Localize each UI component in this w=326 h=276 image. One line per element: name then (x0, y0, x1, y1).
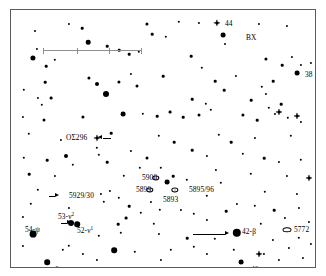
star-point (96, 259, 98, 261)
star-point (30, 55, 35, 60)
star-point (206, 219, 208, 221)
pointer-arrow-head (98, 135, 102, 139)
star-point (198, 114, 201, 117)
star-point (170, 249, 172, 251)
star-point (278, 161, 280, 163)
star-point (106, 45, 109, 48)
star-point (221, 33, 226, 38)
star-point (44, 81, 47, 84)
star-point (128, 205, 131, 208)
star-point (180, 209, 182, 211)
star-point (298, 237, 300, 239)
object-label: BX (246, 34, 256, 41)
star-chart: 44BX38OΣ296590058995895/9658935929/3053-… (0, 0, 326, 276)
object-label: 53-ν2 (58, 213, 74, 220)
star-point (98, 154, 100, 156)
object-label: 42-β (242, 228, 256, 235)
star-point (223, 89, 226, 92)
star-point (46, 159, 49, 162)
star-point (286, 25, 288, 27)
star-point (86, 40, 91, 45)
star-point (193, 213, 195, 215)
star-point (36, 48, 38, 50)
object-label: 5900 (142, 174, 157, 181)
star-point (214, 80, 217, 83)
star-point (286, 175, 288, 177)
star-point (178, 21, 180, 23)
star-point (130, 73, 132, 75)
object-label: 5772 (294, 226, 309, 233)
star-point (272, 239, 274, 241)
star-point (134, 251, 136, 253)
star-point (261, 86, 263, 88)
star-point (241, 113, 244, 116)
star-point (201, 67, 203, 69)
star-point (82, 253, 84, 255)
star-point (95, 82, 99, 86)
star-point (150, 201, 152, 203)
star-point (250, 173, 252, 175)
scale-bar-line (43, 50, 141, 51)
star-point (50, 97, 53, 100)
star-point (68, 207, 70, 209)
double-star-icon (294, 113, 300, 119)
object-label: 5899 (136, 186, 151, 193)
star-point (111, 247, 117, 253)
star-point (72, 164, 74, 166)
star-point (254, 205, 256, 207)
star-point (81, 27, 84, 30)
star-point (230, 141, 233, 144)
star-point (156, 115, 159, 118)
star-point (193, 246, 195, 248)
star-point (239, 260, 244, 265)
object-label: 6-μ (55, 266, 65, 268)
star-point (136, 85, 139, 88)
star-point (250, 99, 253, 102)
star-point (284, 217, 286, 219)
star-point (117, 223, 120, 226)
star-point (205, 103, 207, 105)
star-point (117, 80, 120, 83)
object-label: 38 (305, 71, 313, 78)
star-point (258, 23, 260, 25)
star-point (233, 229, 241, 237)
star-point (142, 113, 144, 115)
double-star-icon (214, 20, 220, 26)
scale-bar-tick (77, 48, 78, 54)
star-point (110, 132, 113, 135)
star-point (206, 195, 208, 197)
star-point (218, 134, 220, 136)
star-point (68, 23, 70, 25)
star-point (100, 193, 102, 195)
star-point (62, 249, 64, 251)
star-point (190, 55, 193, 58)
star-point (138, 51, 140, 53)
star-point (146, 157, 149, 160)
star-point (296, 193, 298, 195)
star-point (158, 233, 160, 235)
star-point (169, 111, 172, 114)
scale-bar-tick (43, 48, 44, 54)
star-point (121, 112, 126, 117)
star-point (109, 190, 111, 192)
star-point (130, 150, 132, 152)
star-point (120, 232, 122, 234)
double-star-icon (306, 175, 312, 181)
star-point (139, 167, 141, 169)
star-point (220, 182, 222, 184)
star-point (291, 56, 293, 58)
star-point (263, 253, 265, 255)
star-point (41, 104, 43, 106)
star-point (290, 135, 292, 137)
star-point (302, 257, 304, 259)
star-point (210, 109, 212, 111)
star-point (128, 53, 131, 56)
star-point (298, 207, 300, 209)
star-point (54, 175, 56, 177)
star-point (60, 139, 62, 141)
star-point (151, 33, 154, 36)
object-label: 44 (225, 20, 233, 27)
double-star-icon (276, 109, 282, 115)
star-point (186, 179, 188, 181)
star-point (287, 117, 289, 119)
